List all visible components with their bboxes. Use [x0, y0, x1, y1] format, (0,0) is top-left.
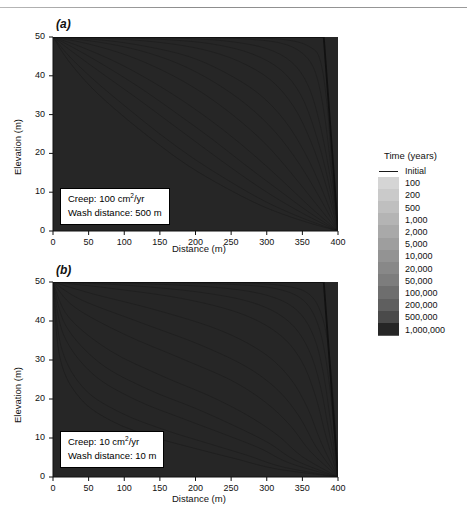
panel-a-creep-line: Creep: 100 cm2/yr	[68, 192, 162, 206]
x-tick-label: 100	[109, 483, 139, 493]
legend-swatch	[378, 323, 399, 336]
legend-label: 20,000	[405, 264, 433, 274]
panel-b-plot	[0, 255, 360, 513]
x-tick-label: 50	[74, 483, 104, 493]
panel-b-creep-suffix: /yr	[129, 436, 140, 447]
legend-initial-swatch	[378, 165, 399, 177]
x-tick-label: 150	[145, 237, 175, 247]
y-tick-label: 0	[19, 471, 45, 481]
legend-label: 5,000	[405, 239, 428, 249]
panel-a-annotation-box: Creep: 100 cm2/yr Wash distance: 500 m	[60, 188, 170, 225]
x-tick-label: 250	[216, 483, 246, 493]
x-tick-label: 200	[181, 237, 211, 247]
y-tick-label: 10	[19, 186, 45, 196]
panel-b-annotation-box: Creep: 10 cm2/yr Wash distance: 10 m	[60, 431, 164, 468]
legend-label: 500	[405, 203, 420, 213]
y-tick-label: 50	[19, 31, 45, 41]
x-tick-label: 300	[252, 237, 282, 247]
x-tick-label: 0	[38, 237, 68, 247]
panel-b-x-axis-title: Distance (m)	[172, 493, 226, 504]
x-tick-label: 350	[287, 237, 317, 247]
y-tick-label: 20	[19, 147, 45, 157]
legend-label: 200,000	[405, 300, 438, 310]
x-tick-label: 300	[252, 483, 282, 493]
y-tick-label: 0	[19, 225, 45, 235]
y-tick-label: 30	[19, 354, 45, 364]
y-tick-label: 20	[19, 393, 45, 403]
legend-label: 500,000	[405, 312, 438, 322]
legend-initial-label: Initial	[405, 166, 426, 176]
legend-label: 1,000	[405, 215, 428, 225]
legend-label: 1,000,000	[405, 325, 445, 335]
legend-row: 100,000	[378, 287, 467, 299]
legend-row: 2,000	[378, 226, 467, 238]
legend-row: 1,000	[378, 214, 467, 226]
legend-label: 100,000	[405, 288, 438, 298]
x-tick-label: 100	[109, 237, 139, 247]
legend-row-initial: Initial	[378, 165, 467, 177]
legend-row: 5,000	[378, 238, 467, 250]
x-tick-label: 250	[216, 237, 246, 247]
panel-a-creep-prefix: Creep: 100 cm	[68, 193, 130, 204]
legend-row: 50,000	[378, 275, 467, 287]
x-tick-label: 400	[323, 483, 353, 493]
legend-label: 2,000	[405, 227, 428, 237]
y-tick-label: 50	[19, 276, 45, 286]
x-tick-label: 400	[323, 237, 353, 247]
legend-row: 200,000	[378, 299, 467, 311]
x-tick-label: 150	[145, 483, 175, 493]
legend-label: 50,000	[405, 276, 433, 286]
x-tick-label: 0	[38, 483, 68, 493]
legend-row: 500	[378, 202, 467, 214]
legend-label: 100	[405, 178, 420, 188]
legend-row: 200	[378, 189, 467, 201]
panel-a-wash-line: Wash distance: 500 m	[68, 206, 162, 220]
legend-row: 1,000,000	[378, 323, 467, 335]
y-tick-label: 40	[19, 70, 45, 80]
y-tick-label: 10	[19, 432, 45, 442]
x-tick-label: 50	[74, 237, 104, 247]
legend-title: Time (years)	[384, 150, 467, 161]
legend-row: 100	[378, 177, 467, 189]
legend-row: 500,000	[378, 311, 467, 323]
legend-row: 10,000	[378, 250, 467, 262]
x-tick-label: 350	[287, 483, 317, 493]
legend-rows: 1002005001,0002,0005,00010,00020,00050,0…	[378, 177, 467, 335]
panel-b-creep-line: Creep: 10 cm2/yr	[68, 435, 156, 449]
panel-b-wash-line: Wash distance: 10 m	[68, 449, 156, 463]
panel-a-creep-suffix: /yr	[134, 193, 145, 204]
legend-label: 10,000	[405, 251, 433, 261]
panel-a-plot	[0, 0, 360, 255]
figure-root: (a) Elevation (m) Distance (m) Creep: 10…	[0, 0, 467, 513]
y-tick-label: 40	[19, 315, 45, 325]
panel-a: (a) Elevation (m) Distance (m) Creep: 10…	[0, 0, 360, 255]
x-tick-label: 200	[181, 483, 211, 493]
y-tick-label: 30	[19, 109, 45, 119]
legend-row: 20,000	[378, 263, 467, 275]
panel-b-creep-prefix: Creep: 10 cm	[68, 436, 125, 447]
panel-b: (b) Elevation (m) Distance (m) Creep: 10…	[0, 255, 360, 513]
legend: Time (years) Initial 1002005001,0002,000…	[378, 150, 467, 336]
legend-label: 200	[405, 190, 420, 200]
